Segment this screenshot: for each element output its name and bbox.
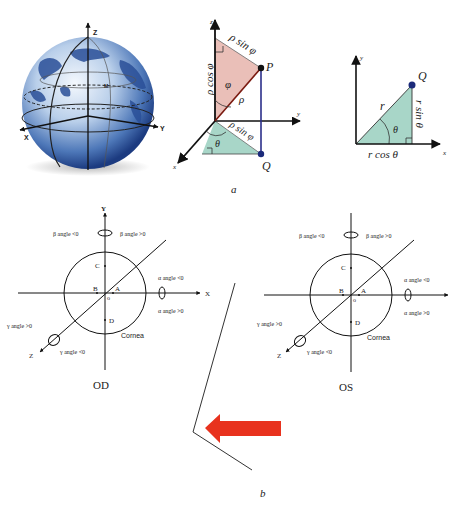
od-label-b: B xyxy=(93,285,98,293)
od-title: OD xyxy=(93,379,109,391)
od-label-z: Z xyxy=(29,352,33,360)
od-label-x: X xyxy=(205,290,210,298)
globe-diagram: Z X Y M xyxy=(20,23,165,176)
label-y: y xyxy=(296,110,301,118)
od-label-gamma-pos: γ angle >0 xyxy=(6,323,32,329)
polar-label-r-cos-theta: r cos θ xyxy=(368,148,398,160)
od-label-gamma-neg: γ angle <0 xyxy=(59,349,85,355)
od-axis-z xyxy=(40,240,166,352)
os-label-cornea: Cornea xyxy=(367,334,390,341)
polar-label-x: x xyxy=(442,149,447,157)
point-q xyxy=(258,151,264,157)
os-label-alpha-neg: α angle <0 xyxy=(404,277,430,283)
os-label-beta-neg: β angle <0 xyxy=(299,233,324,239)
od-label-d: D xyxy=(109,317,114,325)
point-p xyxy=(258,65,264,71)
os-label-gamma-pos: γ angle >0 xyxy=(256,321,282,327)
os-label-a: A xyxy=(361,287,366,295)
od-label-beta-neg: β angle <0 xyxy=(53,231,78,237)
label-z: z xyxy=(209,18,213,26)
os-label-gamma-neg: γ angle <0 xyxy=(306,349,332,355)
spherical-coordinates-diagram: z y x ρ sin φ ρ cos φ φ ρ P ρ sin φ θ Q … xyxy=(172,18,301,195)
polar-label-y: y xyxy=(359,54,364,62)
globe-label-y: Y xyxy=(160,125,165,132)
globe-label-m: M xyxy=(104,83,108,89)
chevron-divider xyxy=(193,283,252,470)
os-label-beta-pos: β angle >0 xyxy=(366,233,391,239)
caption-b: b xyxy=(260,487,266,499)
od-label-cornea: Cornea xyxy=(121,332,144,339)
od-label-alpha-pos: α angle >0 xyxy=(158,308,184,314)
polar-coordinates-diagram: y x Q r θ r sin θ r cos θ xyxy=(356,54,447,160)
polar-label-r-sin-theta: r sin θ xyxy=(414,100,426,129)
label-rho-cos-phi: ρ cos φ xyxy=(203,63,215,96)
polar-label-r: r xyxy=(380,99,385,113)
polar-point-q xyxy=(409,82,416,89)
os-eye-diagram: o A B C D Cornea β angle <0 β angle >0 α… xyxy=(256,213,448,393)
os-title: OS xyxy=(339,381,353,393)
polar-label-q: Q xyxy=(418,69,427,83)
od-label-origin: o xyxy=(107,295,110,301)
os-label-b: B xyxy=(339,287,344,295)
label-rho: ρ xyxy=(238,93,244,105)
os-label-origin: o xyxy=(353,297,356,303)
os-label-z: Z xyxy=(277,352,281,360)
globe-label-x: X xyxy=(24,134,29,141)
figure-canvas: Z X Y M z y x ρ sin φ ρ cos φ φ ρ P ρ si… xyxy=(0,0,461,515)
caption-a: a xyxy=(231,183,237,195)
label-phi: φ xyxy=(225,78,231,90)
label-p: P xyxy=(265,60,274,74)
os-label-alpha-pos: α angle >0 xyxy=(404,310,430,316)
od-label-a: A xyxy=(115,285,120,293)
label-theta: θ xyxy=(215,138,220,149)
globe-label-z: Z xyxy=(93,29,98,36)
red-arrow-icon xyxy=(205,414,281,443)
od-label-y: Y xyxy=(101,205,106,213)
label-q: Q xyxy=(262,159,271,173)
label-x: x xyxy=(172,163,177,171)
od-eye-diagram: Y X Z o A B C D Cornea β angle <0 β angl… xyxy=(6,205,210,391)
os-axis-z xyxy=(286,240,414,352)
polar-label-theta: θ xyxy=(393,124,398,135)
os-label-c: C xyxy=(341,264,346,272)
od-label-alpha-neg: α angle <0 xyxy=(158,275,184,281)
os-label-d: D xyxy=(355,319,360,327)
od-label-beta-pos: β angle >0 xyxy=(120,231,145,237)
od-label-c: C xyxy=(95,262,100,270)
